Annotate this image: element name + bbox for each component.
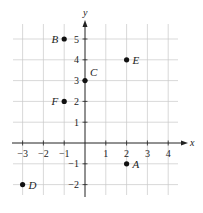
y-axis-arrow-icon bbox=[83, 20, 88, 27]
point-label: B bbox=[51, 33, 58, 45]
x-tick-label: −3 bbox=[17, 148, 28, 159]
point-label: C bbox=[90, 66, 98, 78]
y-axis-label: y bbox=[82, 7, 88, 18]
x-tick-label: 2 bbox=[124, 148, 129, 159]
y-tick-label: −1 bbox=[68, 158, 79, 169]
point-e bbox=[124, 57, 129, 62]
y-tick-label: −2 bbox=[68, 179, 79, 190]
point-f bbox=[62, 99, 67, 104]
point-d bbox=[20, 182, 25, 187]
x-tick-label: 3 bbox=[145, 148, 150, 159]
x-tick-label: 1 bbox=[103, 148, 108, 159]
point-label: F bbox=[50, 95, 58, 107]
point-b bbox=[62, 36, 67, 41]
x-axis-label: x bbox=[189, 137, 195, 148]
y-tick-label: 5 bbox=[74, 34, 79, 45]
grid-lines bbox=[13, 24, 178, 195]
point-label: D bbox=[28, 179, 37, 191]
x-tick-label: 4 bbox=[166, 148, 171, 159]
coordinate-plane: xy −3−2−11234−2−112345 ABCDEF bbox=[0, 0, 203, 213]
y-tick-label: 2 bbox=[74, 96, 79, 107]
x-tick-label: −2 bbox=[38, 148, 49, 159]
y-tick-label: 3 bbox=[74, 75, 79, 86]
point-a bbox=[124, 161, 129, 166]
point-label: E bbox=[132, 54, 140, 66]
data-points: ABCDEF bbox=[20, 33, 140, 191]
x-axis-arrow-icon bbox=[181, 141, 188, 146]
y-tick-label: 1 bbox=[74, 117, 79, 128]
point-c bbox=[82, 78, 87, 83]
y-tick-label: 4 bbox=[74, 54, 79, 65]
point-label: A bbox=[132, 158, 140, 170]
axes: xy bbox=[12, 7, 195, 197]
